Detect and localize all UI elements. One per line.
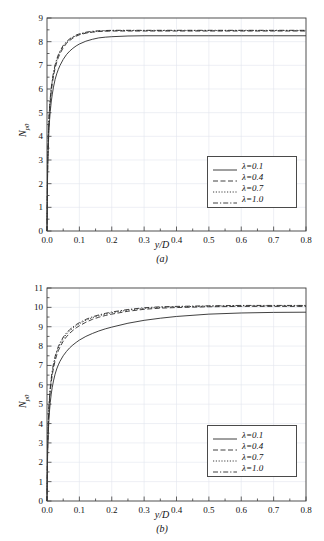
chart-panel-b: Np0 y/D (b) λ=0.1λ=0.4λ=0.7λ=1.0 0.00.10… [0, 271, 324, 541]
y-axis-tick-label: 2 [25, 179, 43, 189]
x-axis-tick-label: 0.0 [41, 505, 52, 515]
y-axis-tick-label: 3 [25, 438, 43, 448]
y-axis-tick-label: 5 [25, 399, 43, 409]
y-axis-tick-label: 0 [25, 496, 43, 506]
x-axis-tick-label: 0.3 [139, 505, 150, 515]
x-axis-tick-label: 0.4 [171, 505, 182, 515]
legend-label: λ=0.1 [242, 161, 263, 171]
legend-a: λ=0.1λ=0.4λ=0.7λ=1.0 [207, 156, 297, 208]
legend-line-sample-icon [212, 161, 238, 171]
y-axis-tick-label: 5 [25, 108, 43, 118]
legend-label: λ=0.7 [242, 183, 263, 193]
x-axis-tick-label: 0.0 [41, 235, 52, 245]
legend-b: λ=0.1λ=0.4λ=0.7λ=1.0 [207, 425, 297, 477]
x-axis-tick-label: 0.1 [74, 505, 85, 515]
y-axis-tick-label: 1 [25, 477, 43, 487]
x-axis-tick-label: 0.8 [300, 505, 311, 515]
legend-label: λ=0.4 [242, 172, 263, 182]
legend-line-sample-icon [212, 430, 238, 440]
y-axis-tick-label: 8 [25, 341, 43, 351]
legend-line-sample-icon [212, 172, 238, 182]
legend-label: λ=1.0 [242, 194, 263, 204]
x-axis-tick-label: 0.2 [106, 505, 117, 515]
plot-area-a [0, 0, 324, 270]
x-axis-tick-label: 0.7 [268, 505, 279, 515]
y-axis-tick-label: 8 [25, 37, 43, 47]
legend-line-sample-icon [212, 183, 238, 193]
legend-line-sample-icon [212, 463, 238, 473]
legend-row: λ=1.0 [212, 462, 292, 473]
legend-label: λ=0.4 [242, 441, 263, 451]
legend-row: λ=0.4 [212, 440, 292, 451]
legend-row: λ=0.1 [212, 160, 292, 171]
y-axis-label-sub-a: p0 [23, 124, 30, 131]
x-axis-tick-label: 0.6 [236, 235, 247, 245]
chart-panel-a: Np0 y/D (a) λ=0.1λ=0.4λ=0.7λ=1.0 0.00.10… [0, 0, 324, 270]
legend-line-sample-icon [212, 452, 238, 462]
panel-caption-a: (a) [0, 253, 324, 264]
y-axis-tick-label: 0 [25, 226, 43, 236]
y-axis-tick-label: 4 [25, 419, 43, 429]
figure-container: Np0 y/D (a) λ=0.1λ=0.4λ=0.7λ=1.0 0.00.10… [0, 0, 324, 541]
panel-caption-b: (b) [0, 523, 324, 534]
legend-line-sample-icon [212, 194, 238, 204]
y-axis-tick-label: 4 [25, 131, 43, 141]
x-axis-tick-label: 0.5 [203, 235, 214, 245]
y-axis-tick-label: 6 [25, 84, 43, 94]
x-axis-tick-label: 0.7 [268, 235, 279, 245]
x-axis-tick-label: 0.8 [300, 235, 311, 245]
y-axis-tick-label: 7 [25, 60, 43, 70]
y-axis-tick-label: 1 [25, 202, 43, 212]
legend-label: λ=1.0 [242, 463, 263, 473]
x-axis-tick-label: 0.4 [171, 235, 182, 245]
legend-row: λ=0.4 [212, 171, 292, 182]
x-axis-tick-label: 0.5 [203, 505, 214, 515]
legend-label: λ=0.7 [242, 452, 263, 462]
x-axis-tick-label: 0.2 [106, 235, 117, 245]
legend-line-sample-icon [212, 441, 238, 451]
y-axis-tick-label: 9 [25, 322, 43, 332]
y-axis-tick-label: 7 [25, 360, 43, 370]
x-axis-tick-label: 0.1 [74, 235, 85, 245]
legend-row: λ=1.0 [212, 193, 292, 204]
y-axis-tick-label: 11 [25, 283, 43, 293]
y-axis-tick-label: 9 [25, 13, 43, 23]
y-axis-tick-label: 6 [25, 380, 43, 390]
legend-row: λ=0.7 [212, 451, 292, 462]
plot-area-b [0, 271, 324, 541]
y-axis-tick-label: 3 [25, 155, 43, 165]
legend-row: λ=0.7 [212, 182, 292, 193]
legend-row: λ=0.1 [212, 429, 292, 440]
x-axis-tick-label: 0.6 [236, 505, 247, 515]
y-axis-tick-label: 10 [25, 302, 43, 312]
legend-label: λ=0.1 [242, 430, 263, 440]
x-axis-tick-label: 0.3 [139, 235, 150, 245]
y-axis-tick-label: 2 [25, 457, 43, 467]
